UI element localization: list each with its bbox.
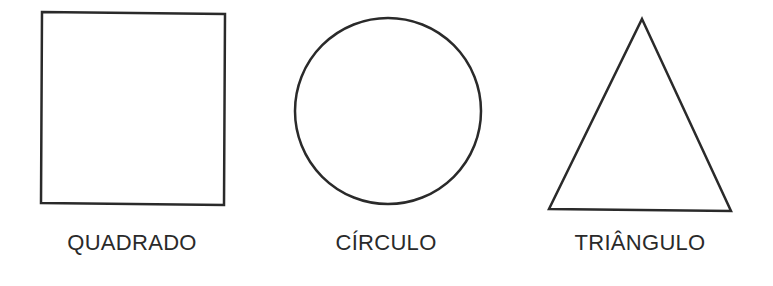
- circle-label: CÍRCULO: [286, 230, 486, 256]
- triangle-label: TRIÂNGULO: [540, 230, 740, 256]
- triangle-shape: [549, 19, 731, 211]
- square-shape: [41, 12, 225, 205]
- circle-shape: [295, 18, 481, 204]
- square-label: QUADRADO: [32, 230, 232, 256]
